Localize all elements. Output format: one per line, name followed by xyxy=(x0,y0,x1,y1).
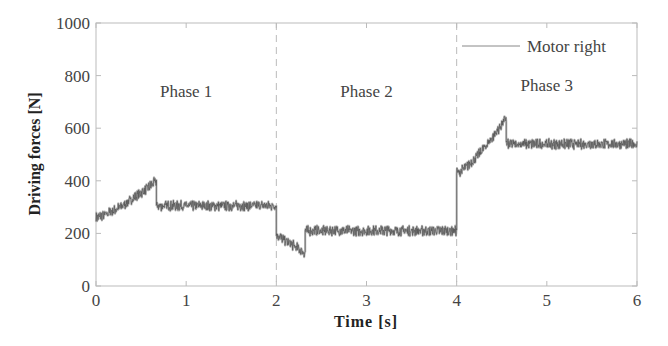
signal-halo xyxy=(96,116,637,257)
phase-label-1: Phase 1 xyxy=(160,82,212,101)
legend: Motor right xyxy=(462,37,606,56)
plot-area-border xyxy=(96,23,637,286)
y-axis-ticks: 02004006008001000 xyxy=(56,14,637,296)
y-axis-title: Driving forces [N] xyxy=(26,92,44,215)
y-tick-label: 200 xyxy=(65,224,91,243)
x-tick-label: 0 xyxy=(92,291,101,310)
x-tick-label: 2 xyxy=(272,291,281,310)
phase-boundaries xyxy=(276,23,456,286)
phase-label-3: Phase 3 xyxy=(521,76,573,95)
y-tick-label: 1000 xyxy=(56,14,90,33)
x-tick-label: 5 xyxy=(543,291,552,310)
driving-forces-chart: 02004006008001000 0123456 Phase 1Phase 2… xyxy=(0,0,668,346)
x-axis-title: Time [s] xyxy=(334,313,398,330)
y-tick-label: 600 xyxy=(65,119,91,138)
x-tick-label: 1 xyxy=(182,291,191,310)
x-tick-label: 4 xyxy=(452,291,461,310)
motor-right-signal xyxy=(96,116,637,257)
phase-labels: Phase 1Phase 2Phase 3 xyxy=(160,76,573,100)
plot-frame xyxy=(96,23,637,286)
y-tick-label: 800 xyxy=(65,67,91,86)
x-tick-label: 6 xyxy=(633,291,642,310)
y-tick-label: 400 xyxy=(65,172,91,191)
x-tick-label: 3 xyxy=(362,291,371,310)
legend-label-motor-right: Motor right xyxy=(527,37,606,56)
x-axis-ticks: 0123456 xyxy=(92,23,642,310)
y-tick-label: 0 xyxy=(82,277,91,296)
phase-label-2: Phase 2 xyxy=(340,82,392,101)
